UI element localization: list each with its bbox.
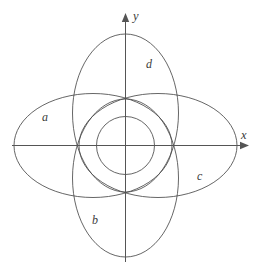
y-axis-label: y [133,10,139,23]
figure-canvas: a b c d x y [0,0,258,273]
curve-label-b: b [92,214,98,226]
x-axis-arrowhead [240,142,249,149]
ellipse-rosette-svg [0,0,258,273]
y-axis-arrowhead [122,13,129,22]
curve-label-a: a [42,111,48,123]
curve-label-c: c [197,170,202,182]
x-axis-label: x [241,129,247,142]
curve-label-d: d [146,58,152,70]
